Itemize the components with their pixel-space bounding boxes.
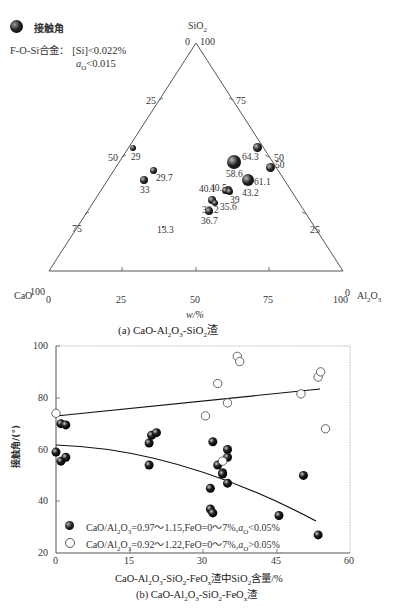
legend-open-label: CaO/Al2O3=0.92～1.22,FeO=0～7%,aO>0.05%: [86, 536, 280, 553]
open-data-point: [214, 379, 222, 387]
xtick-45: 45: [271, 555, 281, 566]
filled-data-point: [145, 439, 154, 448]
xtick-60: 60: [344, 555, 354, 566]
xtick-0: 0: [53, 555, 58, 566]
trend-line-lower: [56, 445, 316, 521]
xtick-15: 15: [124, 555, 134, 566]
filled-data-point: [61, 453, 70, 462]
filled-data-point: [206, 484, 215, 493]
scatter-xlabel: CaO-Al2O3-SiO2-FeOx渣中SiO2含量/%: [115, 570, 283, 587]
legend-filled-label: CaO/Al2O3=0.97～1.15,FeO=0～7%,aO<0.05%: [86, 519, 280, 536]
open-data-point: [236, 357, 244, 365]
open-data-point: [321, 425, 329, 433]
filled-data-point: [223, 445, 232, 454]
caption-b: (b) CaO-Al2O3-SiO2-FeOx渣: [136, 586, 257, 603]
open-data-point: [223, 399, 231, 407]
legend-open-marker-icon: [65, 538, 75, 548]
ytick-20: 20: [38, 547, 48, 558]
open-data-point: [52, 409, 60, 417]
filled-data-point: [208, 508, 217, 517]
trend-line-upper: [56, 389, 320, 416]
ytick-100: 100: [33, 340, 48, 351]
filled-data-point: [218, 470, 227, 479]
filled-data-point: [208, 437, 217, 446]
ytick-40: 40: [38, 495, 48, 506]
open-data-point: [218, 457, 226, 465]
open-data-point: [316, 368, 324, 376]
ytick-80: 80: [38, 392, 48, 403]
filled-data-point: [314, 530, 323, 539]
filled-data-point: [152, 428, 161, 437]
filled-data-point: [145, 461, 154, 470]
ytick-60: 60: [38, 444, 48, 455]
y-axis-label: 接触角/(°): [9, 425, 22, 468]
legend-filled-marker-icon: [65, 521, 74, 530]
open-data-point: [297, 390, 305, 398]
filled-data-point: [223, 479, 232, 488]
xtick-30: 30: [197, 555, 207, 566]
filled-data-point: [299, 471, 308, 480]
filled-data-point: [61, 420, 70, 429]
open-data-point: [201, 412, 209, 420]
filled-data-point: [52, 448, 61, 457]
